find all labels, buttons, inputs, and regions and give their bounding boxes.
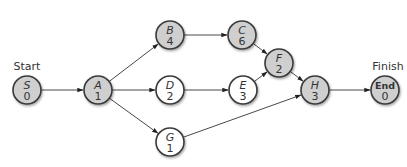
node-s: S0 [13,76,41,104]
nodes-layer: S0A1B4C6D2E3F2G1H3End0 [13,21,399,156]
node-d: D2 [156,76,184,104]
node-b: B4 [156,21,184,49]
node-duration: 1 [167,142,174,155]
node-c: C6 [228,21,256,49]
node-a: A1 [84,76,112,104]
node-end: End0 [371,76,399,104]
node-e: E3 [229,76,257,104]
start-label: Start [14,60,42,73]
node-f: F2 [265,49,293,77]
node-g: G1 [156,128,184,156]
finish-label: Finish [372,60,403,73]
node-name: End [375,80,395,91]
edge-c-f [253,43,267,54]
edge-a-g [109,98,157,133]
node-duration: 3 [312,90,319,103]
node-duration: 2 [167,90,174,103]
project-network-diagram: S0A1B4C6D2E3F2G1H3End0 Start Finish [0,0,407,167]
node-duration: 2 [276,63,283,76]
node-h: H3 [301,76,329,104]
node-duration: 0 [382,90,389,103]
node-duration: 3 [240,90,247,103]
edge-f-h [290,71,303,81]
node-duration: 0 [24,90,31,103]
edge-a-b [109,44,158,81]
node-duration: 4 [167,35,174,48]
node-duration: 6 [239,35,246,48]
node-duration: 1 [95,90,102,103]
edge-e-f [254,72,267,82]
